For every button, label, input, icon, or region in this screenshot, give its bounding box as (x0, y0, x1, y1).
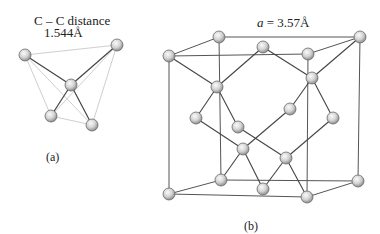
figure-b-unit-cell: a = 3.57Å (b) (163, 15, 366, 233)
atom-face-center (284, 103, 296, 115)
atom-interior (280, 152, 292, 164)
bond-distance-value: 1.544Å (44, 25, 83, 40)
atom-interior (211, 81, 223, 93)
lattice-constant-label: a = 3.57Å (257, 15, 310, 30)
atom-corner (163, 50, 175, 62)
atom-corner (215, 174, 227, 186)
caption-a: (a) (46, 150, 59, 164)
atom-face-center (232, 121, 244, 133)
caption-b: (b) (244, 219, 258, 233)
atom-corner (213, 31, 225, 43)
atom-corner (354, 31, 366, 43)
atom (111, 39, 123, 51)
atom-corner (352, 175, 364, 187)
lattice-constant-value: = 3.57Å (264, 15, 311, 30)
atom-corner (301, 191, 313, 203)
atom-corner (302, 48, 314, 60)
atom (19, 49, 31, 61)
atom-face-center (327, 112, 339, 124)
diamond-structure-diagram: C – C distance 1.544Å (a) (0, 0, 380, 234)
atom-interior (306, 72, 318, 84)
atom (86, 119, 98, 131)
atom-face-center (257, 41, 269, 53)
figure-a-tetrahedron: C – C distance 1.544Å (a) (19, 13, 123, 164)
atom-interior (237, 143, 249, 155)
atom-corner (163, 188, 175, 200)
atom (45, 110, 57, 122)
atom-face-center (257, 183, 269, 195)
atom-face-center (190, 112, 202, 124)
atoms (163, 31, 366, 203)
atom-center (65, 79, 77, 91)
